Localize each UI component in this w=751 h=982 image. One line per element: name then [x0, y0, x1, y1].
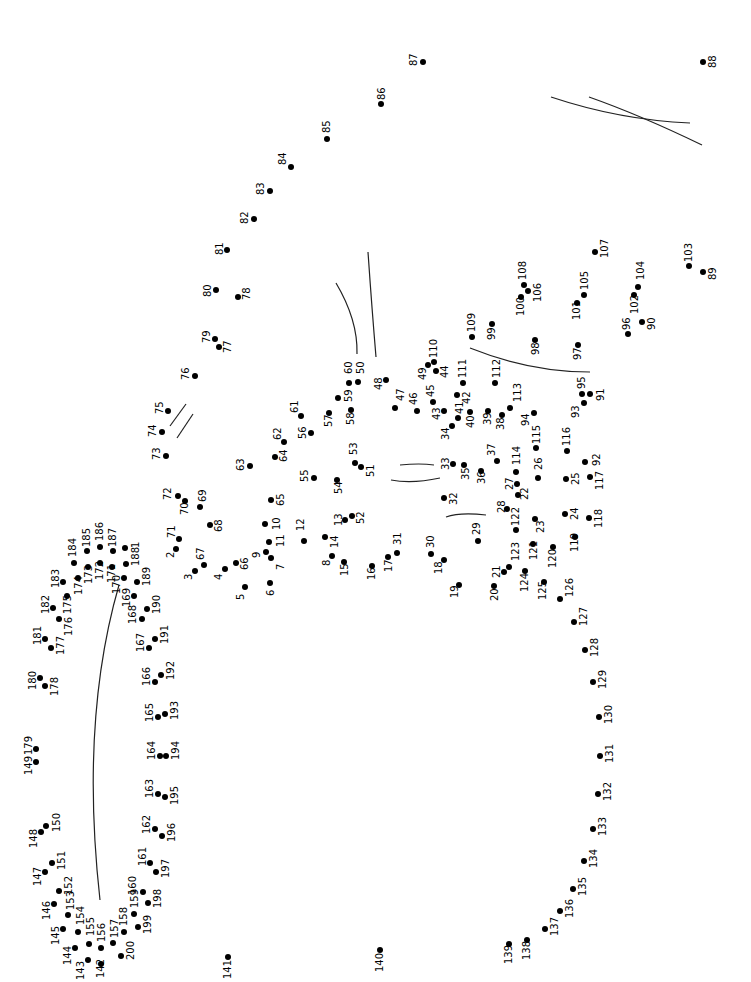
dot-point[interactable] [298, 413, 304, 419]
dot-point[interactable] [162, 711, 168, 717]
dot-point[interactable] [48, 645, 54, 651]
dot-point[interactable] [639, 319, 645, 325]
dot-point[interactable] [134, 579, 140, 585]
dot-point[interactable] [595, 791, 601, 797]
dot-point[interactable] [592, 249, 598, 255]
dot-point[interactable] [251, 216, 257, 222]
dot-point[interactable] [590, 679, 596, 685]
dot-point[interactable] [586, 515, 592, 521]
dot-point[interactable] [563, 476, 569, 482]
dot-point[interactable] [513, 469, 519, 475]
dot-point[interactable] [441, 495, 447, 501]
dot-point[interactable] [56, 888, 62, 894]
dot-point[interactable] [352, 460, 358, 466]
dot-point[interactable] [144, 606, 150, 612]
dot-point[interactable] [581, 292, 587, 298]
dot-point[interactable] [562, 511, 568, 517]
dot-point[interactable] [267, 580, 273, 586]
dot-point[interactable] [581, 858, 587, 864]
dot-point[interactable] [542, 926, 548, 932]
dot-point[interactable] [428, 551, 434, 557]
dot-point[interactable] [42, 683, 48, 689]
dot-point[interactable] [97, 544, 103, 550]
dot-point[interactable] [431, 359, 437, 365]
dot-point[interactable] [587, 391, 593, 397]
dot-point[interactable] [75, 929, 81, 935]
dot-point[interactable] [84, 548, 90, 554]
dot-point[interactable] [110, 940, 116, 946]
dot-point[interactable] [98, 945, 104, 951]
dot-point[interactable] [153, 869, 159, 875]
dot-point[interactable] [557, 596, 563, 602]
dot-point[interactable] [557, 908, 563, 914]
dot-point[interactable] [139, 616, 145, 622]
dot-point[interactable] [123, 561, 129, 567]
dot-point[interactable] [201, 562, 207, 568]
dot-point[interactable] [71, 560, 77, 566]
dot-point[interactable] [175, 493, 181, 499]
dot-point[interactable] [163, 753, 169, 759]
dot-point[interactable] [146, 645, 152, 651]
dot-point[interactable] [700, 269, 706, 275]
dot-point[interactable] [635, 284, 641, 290]
dot-point[interactable] [469, 334, 475, 340]
dot-point[interactable] [454, 392, 460, 398]
dot-point[interactable] [625, 331, 631, 337]
dot-point[interactable] [222, 566, 228, 572]
dot-point[interactable] [308, 430, 314, 436]
dot-point[interactable] [533, 445, 539, 451]
dot-point[interactable] [163, 453, 169, 459]
dot-point[interactable] [121, 929, 127, 935]
dot-point[interactable] [430, 399, 436, 405]
dot-point[interactable] [535, 475, 541, 481]
dot-point[interactable] [49, 860, 55, 866]
dot-point[interactable] [329, 553, 335, 559]
dot-point[interactable] [263, 549, 269, 555]
dot-point[interactable] [118, 953, 124, 959]
dot-point[interactable] [355, 379, 361, 385]
dot-point[interactable] [597, 753, 603, 759]
dot-point[interactable] [65, 912, 71, 918]
dot-point[interactable] [268, 497, 274, 503]
dot-point[interactable] [322, 534, 328, 540]
dot-point[interactable] [165, 408, 171, 414]
dot-point[interactable] [324, 136, 330, 142]
dot-point[interactable] [155, 714, 161, 720]
dot-point[interactable] [131, 911, 137, 917]
dot-point[interactable] [43, 823, 49, 829]
dot-point[interactable] [86, 941, 92, 947]
dot-point[interactable] [152, 826, 158, 832]
dot-point[interactable] [507, 405, 513, 411]
dot-point[interactable] [587, 474, 593, 480]
dot-point[interactable] [489, 321, 495, 327]
dot-point[interactable] [582, 459, 588, 465]
dot-point[interactable] [213, 287, 219, 293]
dot-point[interactable] [506, 564, 512, 570]
dot-point[interactable] [571, 619, 577, 625]
dot-point[interactable] [158, 672, 164, 678]
dot-point[interactable] [475, 538, 481, 544]
dot-point[interactable] [162, 794, 168, 800]
dot-point[interactable] [311, 475, 317, 481]
dot-point[interactable] [525, 288, 531, 294]
dot-point[interactable] [267, 188, 273, 194]
dot-point[interactable] [394, 550, 400, 556]
dot-point[interactable] [152, 636, 158, 642]
dot-point[interactable] [159, 429, 165, 435]
dot-point[interactable] [596, 714, 602, 720]
dot-point[interactable] [288, 164, 294, 170]
dot-point[interactable] [192, 373, 198, 379]
dot-point[interactable] [590, 826, 596, 832]
dot-point[interactable] [579, 391, 585, 397]
dot-point[interactable] [268, 555, 274, 561]
dot-point[interactable] [494, 458, 500, 464]
dot-point[interactable] [346, 380, 352, 386]
dot-point[interactable] [140, 889, 146, 895]
dot-point[interactable] [152, 679, 158, 685]
dot-point[interactable] [212, 336, 218, 342]
dot-point[interactable] [135, 924, 141, 930]
dot-point[interactable] [159, 833, 165, 839]
dot-point[interactable] [564, 448, 570, 454]
dot-point[interactable] [531, 410, 537, 416]
dot-point[interactable] [455, 415, 461, 421]
